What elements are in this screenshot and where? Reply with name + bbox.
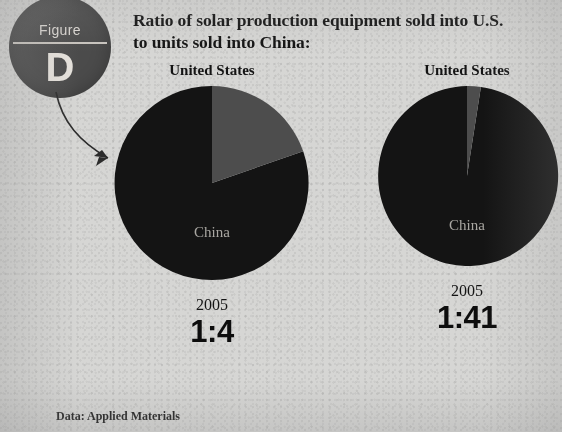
figure-badge: Figure D: [9, 0, 111, 98]
pie-left-wrap: China: [112, 84, 312, 282]
figure-badge-word: Figure: [9, 22, 111, 38]
pie-chart-left: [113, 84, 311, 282]
pie-right-title: United States: [372, 62, 562, 79]
figure-badge-letter: D: [9, 45, 111, 89]
headline-line-2-emphasis: China:: [259, 32, 310, 52]
headline-line-1: Ratio of solar production equipment sold…: [133, 10, 503, 30]
source-note: Data: Applied Materials: [56, 409, 180, 424]
pie-left-ratio: 1:4: [112, 315, 312, 348]
pie-right-ratio: 1:41: [372, 301, 562, 334]
pie-right-year: 2005: [372, 282, 562, 300]
page-title: Ratio of solar production equipment sold…: [133, 9, 543, 53]
pie-left-year: 2005: [112, 296, 312, 314]
figure-panel: Figure D Ratio of solar production equip…: [0, 0, 562, 432]
headline-line-2-prefix: to units sold into: [133, 32, 259, 52]
pie-chart-right: [375, 84, 559, 268]
pie-right-wrap: China: [372, 84, 562, 268]
pie-left-title: United States: [112, 62, 312, 79]
figure-badge-divider: [13, 42, 107, 44]
chart-panel-left: United States China 2005 1:4: [112, 62, 312, 348]
chart-panel-right: United States China 2005 1:41: [372, 62, 562, 334]
